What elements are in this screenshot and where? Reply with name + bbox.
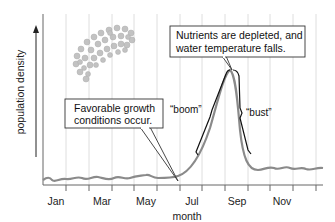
callout-text: water temperature falls. (175, 42, 286, 54)
y-axis-title: population density (14, 49, 26, 134)
x-tick-label: Nov (273, 195, 292, 207)
boom-bust-chart: Jan Mar May Jul Sep Nov month population… (0, 0, 335, 222)
x-tick-label: Mar (93, 195, 112, 207)
bust-label: “bust” (246, 107, 272, 118)
x-tick-label: Jul (185, 195, 198, 207)
boom-label: “boom” (170, 104, 202, 115)
x-tick-label: Sep (228, 195, 247, 207)
x-ticks (66, 185, 316, 191)
callout-text: conditions occur. (74, 114, 152, 126)
y-axis-arrow-icon (33, 25, 39, 157)
callout-text: Nutrients are depleted, and (176, 29, 303, 41)
x-tick-label: Jan (48, 195, 65, 207)
x-axis-title: month (172, 210, 201, 222)
x-tick-label: May (136, 195, 157, 207)
callout-text: Favorable growth (74, 102, 155, 114)
